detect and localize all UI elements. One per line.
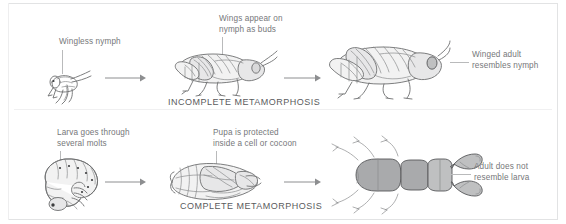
metamorphosis-diagram: Wingless nymph — [0, 0, 566, 224]
frame-border-top — [8, 3, 558, 4]
arrow-larva-to-pupa — [104, 176, 148, 188]
art-adult-beetle — [326, 134, 458, 214]
callout-adult-does-not-resemble-larva: Adult does not resemble larva — [474, 162, 566, 183]
art-larva — [30, 154, 114, 212]
art-winged-adult-grasshopper — [310, 28, 450, 100]
leader-line-winged-adult — [450, 62, 469, 63]
arrow-pupa-to-adult — [283, 176, 323, 188]
section-title-complete-metamorphosis: COMPLETE METAMORPHOSIS — [180, 201, 322, 211]
art-wingless-nymph — [22, 62, 92, 108]
frame-border-bottom — [8, 219, 558, 220]
leader-line-adult-beetle — [451, 174, 471, 175]
callout-pupa-protected: Pupa is protected inside a cell or cocoo… — [213, 128, 333, 149]
callout-larva-molts: Larva goes through several molts — [57, 128, 157, 149]
arrow-nymph-to-older-nymph — [104, 72, 148, 84]
section-title-incomplete-metamorphosis: INCOMPLETE METAMORPHOSIS — [168, 97, 320, 107]
callout-winged-adult: Winged adult resembles nymph — [472, 50, 564, 71]
callout-wingless-nymph: Wingless nymph — [59, 37, 149, 48]
section-incomplete-metamorphosis: Wingless nymph — [0, 6, 566, 112]
section-complete-metamorphosis: Larva goes through several molts — [0, 112, 566, 218]
art-older-nymph-with-wing-buds — [155, 36, 277, 98]
